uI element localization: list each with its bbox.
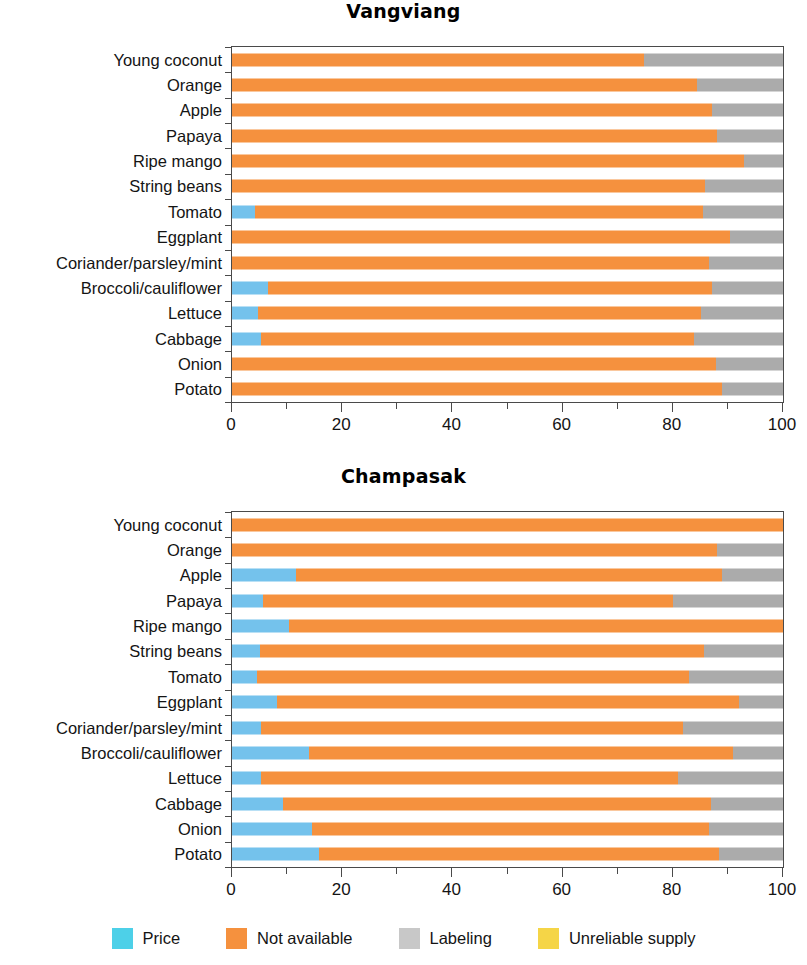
- x-axis-tick-label-80: 80: [662, 880, 681, 900]
- plot-area-champasak: [231, 511, 784, 868]
- bar-segment-labeling: [717, 544, 783, 557]
- x-axis-tick-label-40: 40: [442, 415, 461, 435]
- bar-segment-labeling: [722, 383, 783, 396]
- legend-item-unreliable-supply[interactable]: Unreliable supply: [538, 928, 696, 949]
- bar-segment-labeling: [705, 180, 783, 193]
- bar-segment-not-available: [261, 332, 695, 345]
- bar-tomato: [232, 205, 783, 218]
- x-axis-tick-label-60: 60: [552, 880, 571, 900]
- legend-swatch-not-available: [226, 928, 247, 949]
- y-axis-tick: [225, 123, 232, 124]
- bar-segment-price: [232, 746, 309, 759]
- bar-segment-labeling: [712, 281, 783, 294]
- x-axis-tick-label-0: 0: [226, 415, 235, 435]
- bar-segment-labeling: [689, 670, 783, 683]
- x-axis-tick: [396, 868, 397, 874]
- bar-segment-labeling: [644, 53, 783, 66]
- x-axis-tick: [451, 868, 452, 877]
- legend-item-price[interactable]: Price: [112, 928, 181, 949]
- bar-segment-not-available: [261, 772, 678, 785]
- bar-segment-not-available: [232, 518, 783, 531]
- bar-segment-not-available: [232, 180, 705, 193]
- bar-segment-price: [232, 307, 258, 320]
- legend-swatch-price: [112, 928, 133, 949]
- y-axis-tick: [225, 639, 232, 640]
- bar-segment-price: [232, 696, 277, 709]
- bar-segment-price: [232, 205, 255, 218]
- y-axis-labels-champasak: Young coconutOrangeApplePapayaRipe mango…: [0, 511, 222, 866]
- plot-area-vangviang: [231, 46, 784, 403]
- bar-segment-labeling: [673, 594, 783, 607]
- bar-eggplant: [232, 696, 783, 709]
- bar-segment-not-available: [319, 848, 720, 861]
- x-axis-tick: [341, 403, 342, 412]
- x-axis-tick-label-80: 80: [662, 415, 681, 435]
- y-axis-tick: [225, 537, 232, 538]
- y-axis-label-orange: Orange: [0, 542, 222, 559]
- bar-apple: [232, 104, 783, 117]
- x-axis-vangviang: 020406080100: [231, 401, 782, 441]
- bar-segment-not-available: [257, 670, 690, 683]
- x-axis-tick: [782, 403, 783, 412]
- bar-segment-not-available: [268, 281, 713, 294]
- bar-segment-labeling: [683, 721, 783, 734]
- x-axis-tick: [782, 868, 783, 877]
- bar-segment-labeling: [739, 696, 783, 709]
- bar-segment-not-available: [312, 822, 709, 835]
- y-axis-tick: [225, 690, 232, 691]
- y-axis-label-orange: Orange: [0, 77, 222, 94]
- bar-segment-labeling: [697, 79, 783, 92]
- y-axis-tick: [225, 250, 232, 251]
- bar-segment-price: [232, 569, 296, 582]
- bar-segment-not-available: [232, 129, 717, 142]
- x-axis-tick: [617, 403, 618, 409]
- x-axis-tick: [507, 403, 508, 409]
- legend-item-not-available[interactable]: Not available: [226, 928, 352, 949]
- bar-segment-labeling: [716, 357, 783, 370]
- y-axis-tick: [225, 351, 232, 352]
- y-axis-tick: [225, 816, 232, 817]
- bar-lettuce: [232, 772, 783, 785]
- y-axis-label-potato: Potato: [0, 381, 222, 398]
- y-axis-label-broccoli-cauliflower: Broccoli/cauliflower: [0, 745, 222, 762]
- chart-title-vangviang: Vangviang: [0, 0, 807, 22]
- bar-segment-labeling: [694, 332, 783, 345]
- bar-lettuce: [232, 307, 783, 320]
- y-axis-label-young-coconut: Young coconut: [0, 51, 222, 68]
- bar-string-beans: [232, 180, 783, 193]
- bar-segment-labeling: [730, 231, 783, 244]
- bar-onion: [232, 357, 783, 370]
- bar-segment-not-available: [283, 797, 711, 810]
- y-axis-tick: [225, 199, 232, 200]
- x-axis-champasak: 020406080100: [231, 866, 782, 906]
- bar-segment-not-available: [232, 544, 717, 557]
- bar-segment-not-available: [296, 569, 721, 582]
- bar-segment-not-available: [255, 205, 702, 218]
- y-axis-label-broccoli-cauliflower: Broccoli/cauliflower: [0, 280, 222, 297]
- bar-string-beans: [232, 645, 783, 658]
- y-axis-tick: [225, 791, 232, 792]
- bar-segment-not-available: [260, 645, 704, 658]
- y-axis-label-string-beans: String beans: [0, 643, 222, 660]
- legend-item-labeling[interactable]: Labeling: [399, 928, 492, 949]
- bar-ripe-mango: [232, 155, 783, 168]
- bar-cabbage: [232, 332, 783, 345]
- bar-segment-price: [232, 772, 261, 785]
- bar-tomato: [232, 670, 783, 683]
- y-axis-label-apple: Apple: [0, 567, 222, 584]
- bar-segment-price: [232, 721, 261, 734]
- y-axis-label-potato: Potato: [0, 846, 222, 863]
- x-axis-tick: [617, 868, 618, 874]
- bar-segment-not-available: [232, 256, 709, 269]
- y-axis-label-lettuce: Lettuce: [0, 305, 222, 322]
- bar-segment-labeling: [709, 256, 783, 269]
- y-axis-label-young-coconut: Young coconut: [0, 516, 222, 533]
- y-axis-tick: [225, 377, 232, 378]
- bar-segment-labeling: [712, 104, 783, 117]
- bar-segment-labeling: [744, 155, 783, 168]
- bar-segment-price: [232, 332, 261, 345]
- x-axis-tick: [341, 868, 342, 877]
- bar-segment-labeling: [717, 129, 783, 142]
- bar-papaya: [232, 129, 783, 142]
- chart-title-champasak: Champasak: [0, 465, 807, 487]
